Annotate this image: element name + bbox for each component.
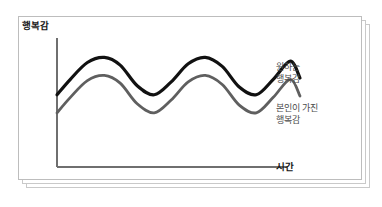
curve-actual-happiness: [57, 75, 300, 113]
happiness-line-chart: [18, 16, 362, 180]
legend-desired-line-2: 행복감: [276, 74, 299, 86]
x-axis-label: 시간: [276, 161, 294, 174]
legend-item-actual-happiness: 본인이 가진 행복감: [276, 103, 318, 127]
y-axis-label: 행복감: [22, 20, 48, 33]
chart-canvas: [18, 16, 362, 180]
screenshot-root: 행복감 시간 원하는 행복감 본인이 가진 행복감: [0, 0, 382, 207]
legend-item-desired-happiness: 원하는 행복감: [276, 62, 299, 86]
legend-actual-line-1: 본인이 가진: [276, 103, 318, 115]
legend-desired-line-1: 원하는: [276, 62, 299, 74]
legend-actual-line-2: 행복감: [276, 115, 318, 127]
